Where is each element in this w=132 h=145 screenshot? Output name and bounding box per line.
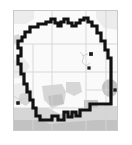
- map-canvas[interactable]: [0, 0, 132, 145]
- site-marker-4[interactable]: [16, 101, 20, 105]
- map-thumbnail[interactable]: [0, 0, 132, 145]
- site-marker-2[interactable]: [87, 66, 90, 69]
- site-marker-3[interactable]: [113, 88, 116, 91]
- site-marker-1[interactable]: [89, 52, 93, 56]
